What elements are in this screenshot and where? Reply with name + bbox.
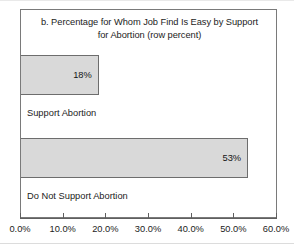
chart-title-line-2: for Abortion (row percent) [98, 30, 202, 40]
x-axis-tick-label: 60.0% [263, 224, 289, 234]
x-axis-tick [276, 213, 277, 218]
bar-group-do-not-support-abortion: 53% Do Not Support Abortion [21, 138, 276, 201]
category-label-support-abortion: Support Abortion [21, 108, 276, 118]
x-axis-tick-label: 30.0% [135, 224, 161, 234]
chart-title-line-1: b. Percentage for Whom Job Find Is Easy … [41, 17, 258, 27]
x-axis-tick [20, 213, 21, 218]
x-axis-tick [148, 213, 149, 218]
bar-value-label: 18% [73, 70, 98, 80]
x-axis-tick [63, 213, 64, 218]
bar-group-support-abortion: 18% Support Abortion [21, 55, 276, 118]
page-edge-top [0, 0, 294, 1]
bar-support-abortion[interactable]: 18% [21, 55, 99, 95]
x-axis [20, 218, 277, 219]
x-axis-tick-label: 40.0% [177, 224, 203, 234]
x-axis-tick [233, 213, 234, 218]
category-label-do-not-support-abortion: Do Not Support Abortion [21, 191, 276, 201]
x-axis-tick-label: 50.0% [220, 224, 246, 234]
chart-title: b. Percentage for Whom Job Find Is Easy … [25, 16, 274, 41]
bar-do-not-support-abortion[interactable]: 53% [21, 138, 248, 178]
x-axis-tick [191, 213, 192, 218]
x-axis-tick [105, 213, 106, 218]
bar-chart: b. Percentage for Whom Job Find Is Easy … [20, 9, 277, 218]
x-axis-tick-label: 0.0% [9, 224, 30, 234]
page-edge-bottom [0, 243, 294, 244]
bar-value-label: 53% [223, 153, 248, 163]
x-axis-tick-label: 20.0% [92, 224, 118, 234]
x-axis-tick-label: 10.0% [49, 224, 75, 234]
plot-area: 18% Support Abortion 53% Do Not Support … [21, 47, 276, 217]
